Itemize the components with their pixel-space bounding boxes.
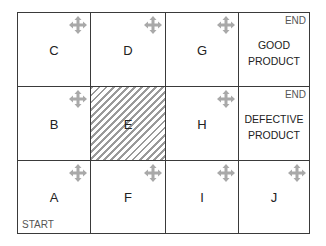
cell-a: A START <box>18 161 91 233</box>
cell-i: I <box>166 161 239 233</box>
cell-d: D <box>91 13 166 87</box>
move-arrows-icon <box>68 163 88 183</box>
outcome-line-1: GOOD <box>239 37 309 53</box>
move-arrows-icon <box>216 163 236 183</box>
move-arrows-icon <box>68 15 88 35</box>
outcome-line-2: PRODUCT <box>239 53 309 69</box>
cell-defective-product: END DEFECTIVE PRODUCT <box>239 87 309 161</box>
cell-label: B <box>18 116 90 131</box>
cell-label: H <box>166 116 238 131</box>
cell-label: A <box>18 190 90 205</box>
cell-c: C <box>18 13 91 87</box>
move-arrows-icon <box>287 163 307 183</box>
cell-b: B <box>18 87 91 161</box>
move-arrows-icon <box>143 15 163 35</box>
end-tag: END <box>285 15 306 26</box>
cell-e-blocked: E <box>91 87 166 161</box>
start-tag: START <box>22 219 54 230</box>
end-tag: END <box>285 89 306 100</box>
cell-label: E <box>91 116 165 131</box>
cell-label: F <box>91 190 165 205</box>
cell-f: F <box>91 161 166 233</box>
cell-label: I <box>166 190 238 205</box>
outcome-label: DEFECTIVE PRODUCT <box>239 111 309 143</box>
cell-g: G <box>166 13 239 87</box>
outcome-line-2: PRODUCT <box>239 127 309 143</box>
move-arrows-icon <box>143 163 163 183</box>
outcome-label: GOOD PRODUCT <box>239 37 309 69</box>
cell-label: G <box>166 42 238 57</box>
move-arrows-icon <box>216 15 236 35</box>
cell-good-product: END GOOD PRODUCT <box>239 13 309 87</box>
outcome-line-1: DEFECTIVE <box>239 111 309 127</box>
cell-label: C <box>18 42 90 57</box>
cell-label: J <box>239 190 309 205</box>
move-arrows-icon <box>68 89 88 109</box>
cell-j: J <box>239 161 309 233</box>
state-grid: C D G END GOOD PRODUCT B E H END DEFECTI… <box>17 12 310 234</box>
cell-h: H <box>166 87 239 161</box>
cell-label: D <box>91 42 165 57</box>
move-arrows-icon <box>216 89 236 109</box>
